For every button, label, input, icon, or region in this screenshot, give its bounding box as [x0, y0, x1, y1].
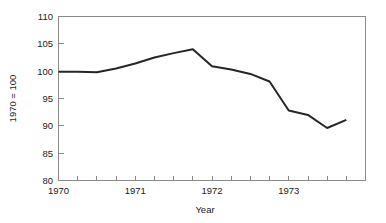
y-tick-label-100: 100	[37, 66, 53, 77]
data-series-line	[59, 49, 347, 128]
y-tick-label-90: 90	[42, 120, 53, 131]
y-axis-title: 1970 = 100	[7, 75, 18, 123]
x-axis-title: Year	[195, 204, 214, 215]
y-tick-label-95: 95	[42, 93, 53, 104]
y-tick-label-85: 85	[42, 148, 53, 159]
plot-frame	[59, 17, 366, 181]
x-axis-ticks	[59, 176, 347, 181]
chart-figure: 110 105 100 95 90 85 80	[0, 0, 386, 223]
y-axis-tick-labels: 110 105 100 95 90 85 80	[37, 11, 53, 186]
y-axis-ticks	[59, 17, 64, 181]
x-tick-label-1973: 1973	[278, 185, 299, 196]
line-chart: 110 105 100 95 90 85 80	[0, 0, 386, 223]
x-tick-label-1970: 1970	[48, 185, 69, 196]
x-tick-label-1972: 1972	[201, 185, 222, 196]
y-tick-label-110: 110	[38, 11, 53, 22]
x-axis-tick-labels: 1970 1971 1972 1973	[48, 185, 299, 196]
x-tick-label-1971: 1971	[125, 185, 146, 196]
y-tick-label-105: 105	[37, 38, 53, 49]
